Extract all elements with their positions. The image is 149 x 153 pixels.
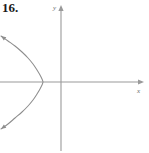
- figure-container: 16. x y: [0, 0, 149, 153]
- plot-svg: x y: [0, 0, 149, 153]
- y-axis-label: y: [52, 4, 57, 12]
- x-axis-label: x: [136, 87, 141, 95]
- x-axis-group: [0, 79, 144, 84]
- y-axis-group: [58, 5, 63, 151]
- curve-arrowhead-lower: [1, 124, 6, 129]
- x-axis-arrowhead: [138, 79, 144, 84]
- curve-arrowhead-upper: [1, 36, 6, 41]
- y-axis-arrowhead: [58, 5, 63, 11]
